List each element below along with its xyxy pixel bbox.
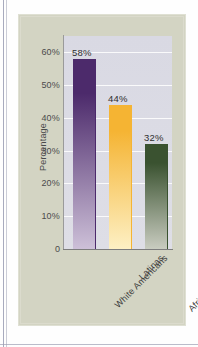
y-axis-tick-label: 50% — [26, 80, 60, 90]
y-axis-tick-label: 0 — [26, 244, 60, 254]
page-canvas: Percentage 010%20%30%40%50%60% 58%44%32%… — [0, 0, 198, 347]
bar-fill — [73, 59, 95, 249]
page-bottom-rule — [0, 344, 198, 345]
bar — [73, 59, 95, 249]
y-axis-tick-label: 30% — [26, 146, 60, 156]
y-axis-tick-label: 40% — [26, 113, 60, 123]
bar-right-edge — [131, 105, 132, 249]
figure-panel: Percentage 010%20%30%40%50%60% 58%44%32%… — [18, 14, 186, 326]
bar-value-label: 44% — [108, 93, 128, 104]
bar-fill — [145, 144, 167, 249]
page-gutter-rule-outer — [3, 0, 4, 347]
bar — [145, 144, 167, 249]
page-gutter-rule-inner — [6, 0, 7, 347]
bar-value-label: 58% — [72, 47, 92, 58]
y-axis-tick-label: 20% — [26, 178, 60, 188]
bar-fill — [109, 105, 131, 249]
bar-right-edge — [167, 144, 168, 249]
x-axis-category-label: African Americans — [186, 253, 198, 314]
y-axis-tick-label: 60% — [26, 47, 60, 57]
x-axis-line — [63, 249, 173, 250]
bar-value-label: 32% — [144, 132, 164, 143]
bar-right-edge — [95, 59, 96, 249]
y-axis-tick-label: 10% — [26, 211, 60, 221]
bar — [109, 105, 131, 249]
